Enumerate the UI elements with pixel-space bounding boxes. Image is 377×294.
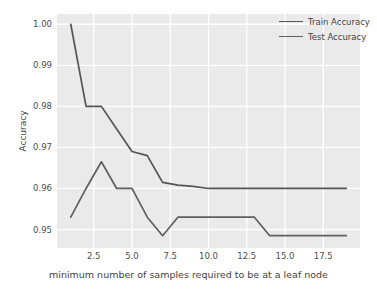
legend-line-swatch-icon	[279, 21, 303, 22]
chart-legend: Train AccuracyTest Accuracy	[277, 14, 372, 44]
legend-item[interactable]: Test Accuracy	[279, 31, 370, 42]
y-tick-label: 0.96	[0, 183, 52, 193]
x-tick-label: 2.5	[87, 251, 101, 261]
legend-item[interactable]: Train Accuracy	[279, 16, 370, 27]
series-line-train-accuracy	[71, 24, 346, 188]
series-line-test-accuracy	[71, 162, 346, 236]
plot-area	[57, 14, 360, 248]
legend-item-label: Test Accuracy	[308, 32, 366, 42]
x-tick-label: 12.5	[237, 251, 256, 261]
x-axis-label: minimum number of samples required to be…	[0, 269, 377, 280]
data-series-layer	[57, 14, 360, 248]
y-tick-label: 0.99	[0, 60, 52, 70]
x-tick-label: 7.5	[163, 251, 177, 261]
x-tick-label: 17.5	[314, 251, 333, 261]
legend-line-swatch-icon	[279, 36, 303, 37]
x-tick-label: 5.0	[125, 251, 139, 261]
legend-item-label: Train Accuracy	[308, 17, 370, 27]
y-tick-label: 0.95	[0, 225, 52, 235]
y-tick-label: 0.98	[0, 101, 52, 111]
x-tick-label: 15.0	[276, 251, 295, 261]
chart-figure: Accuracy 0.950.960.970.980.991.00 2.55.0…	[0, 0, 377, 294]
x-tick-label: 10.0	[199, 251, 218, 261]
y-tick-label: 1.00	[0, 19, 52, 29]
y-tick-label: 0.97	[0, 142, 52, 152]
